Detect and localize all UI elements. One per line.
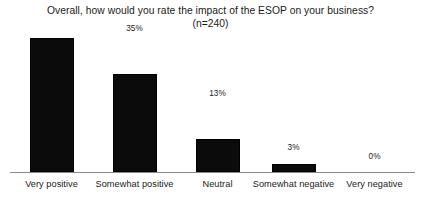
category-label-somewhat-positive: Somewhat positive [96, 179, 174, 190]
category-label-very-negative: Very negative [346, 179, 402, 190]
bar-group-very-negative: 0% Very negative [333, 0, 416, 203]
bar-group-very-positive: 48% Very positive [10, 0, 93, 203]
bar-somewhat-positive[interactable] [113, 74, 157, 172]
bar-group-neutral: 13% Neutral [176, 0, 259, 203]
category-label-neutral: Neutral [203, 179, 233, 190]
category-label-somewhat-negative: Somewhat negative [253, 179, 335, 190]
bar-neutral[interactable] [196, 139, 240, 172]
bar-value-label: 35% [126, 24, 143, 33]
bar-somewhat-negative[interactable] [272, 164, 316, 172]
bar-group-somewhat-negative: 3% Somewhat negative [252, 0, 335, 203]
bar-very-positive[interactable] [30, 38, 74, 172]
bar-value-label: 3% [287, 143, 299, 152]
chart-container: Overall, how would you rate the impact o… [0, 0, 421, 203]
plot-area: 48% Very positive 35% Somewhat positive … [0, 0, 421, 203]
category-label-very-positive: Very positive [25, 179, 78, 190]
bar-value-label: 0% [368, 152, 380, 161]
bar-value-label: 13% [209, 89, 226, 98]
bar-group-somewhat-positive: 35% Somewhat positive [93, 0, 176, 203]
